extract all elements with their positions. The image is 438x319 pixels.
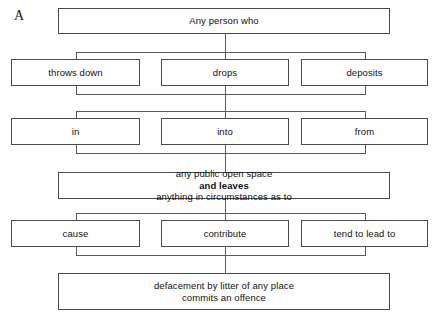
node-condition-suffix: anything in circumstances as to [156, 191, 292, 203]
node-prep-from-label: from [355, 126, 374, 138]
flowchart-diagram: A Any person who throws down drops depos… [0, 0, 438, 319]
node-verb-drops-label: drops [213, 67, 237, 79]
connector-row1-merge-bar [76, 94, 366, 95]
node-prep-from: from [301, 118, 428, 145]
node-outcome-line1: defacement by litter of any place [154, 280, 294, 292]
node-root: Any person who [58, 8, 390, 34]
node-verb-deposits-label: deposits [346, 67, 382, 79]
connector-row3-merge-bar [76, 255, 366, 256]
node-cause: cause [11, 220, 140, 247]
node-outcome: defacement by litter of any place commit… [58, 273, 390, 310]
node-cause-label: cause [63, 228, 89, 240]
node-prep-in-label: in [72, 126, 80, 138]
node-prep-into-label: into [217, 126, 233, 138]
node-tend-to-lead-to-label: tend to lead to [334, 228, 396, 240]
connector-row2-merge-bar [76, 153, 366, 154]
node-prep-in: in [11, 118, 140, 145]
node-verb-throws-down: throws down [11, 59, 140, 86]
connector-row2-bar [76, 111, 366, 112]
node-condition-label: any public open space and leaves anythin… [156, 168, 292, 203]
node-verb-throws-down-label: throws down [48, 67, 102, 79]
node-condition-prefix: any public open space [156, 168, 292, 180]
connector-row1-bar [76, 52, 366, 53]
connector-row1-to-row2-stem [225, 94, 226, 111]
node-contribute-label: contribute [204, 228, 247, 240]
node-verb-drops: drops [161, 59, 289, 86]
node-prep-into: into [161, 118, 289, 145]
node-verb-deposits: deposits [301, 59, 428, 86]
connector-row3-bar [76, 213, 366, 214]
connector-row3-to-outcome-stem [225, 255, 226, 274]
node-condition-emphasis: and leaves [199, 180, 249, 191]
node-condition: any public open space and leaves anythin… [58, 172, 390, 199]
connector-root-stem [225, 34, 226, 52]
node-contribute: contribute [161, 220, 289, 247]
node-outcome-line2: commits an offence [182, 292, 266, 304]
node-root-label: Any person who [189, 15, 259, 27]
figure-label: A [14, 8, 24, 24]
node-tend-to-lead-to: tend to lead to [301, 220, 428, 247]
